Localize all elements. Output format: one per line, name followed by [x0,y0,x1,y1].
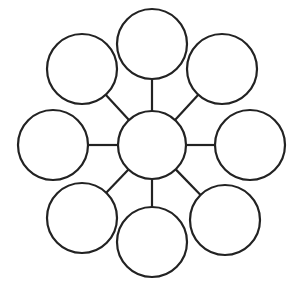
bubble-bottom-left [47,183,117,253]
bubble-top-left [47,34,117,104]
bubble-center [118,111,186,179]
bubble-left [18,110,88,180]
bubble-bottom-right [190,185,260,255]
connector-bottom-left [106,170,128,193]
bubble-bottom [117,207,187,277]
connector-bottom-right [176,169,201,195]
bubble-right [215,110,285,180]
bubble-top [117,9,187,79]
connector-top-left [106,95,129,120]
bubble-map-diagram [0,0,302,291]
connector-top-right [175,95,198,120]
bubble-top-right [187,34,257,104]
nodes [18,9,285,277]
